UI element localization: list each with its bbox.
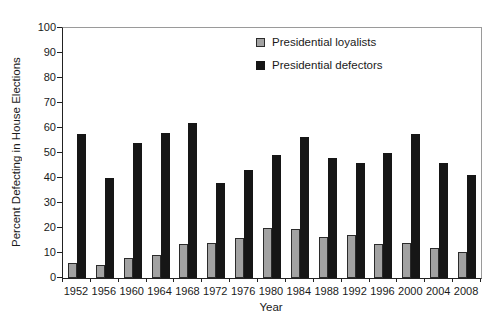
plot-area: Presidential loyalists Presidential defe… bbox=[62, 27, 482, 279]
legend-swatch-defectors-icon bbox=[256, 61, 265, 70]
bar-loyalists-2008 bbox=[458, 252, 467, 278]
y-tick-label-100: 100 bbox=[0, 21, 56, 33]
legend-label-defectors: Presidential defectors bbox=[272, 59, 383, 71]
bar-loyalists-1992 bbox=[347, 235, 356, 278]
x-tick-mark-1 bbox=[90, 278, 91, 282]
y-tick-label-60: 60 bbox=[0, 121, 56, 133]
bar-defectors-1992 bbox=[356, 163, 365, 278]
bar-defectors-1988 bbox=[328, 158, 337, 278]
bar-loyalists-1956 bbox=[96, 265, 105, 278]
x-tick-mark-13 bbox=[424, 278, 425, 282]
bar-defectors-1956 bbox=[105, 178, 114, 278]
x-tick-mark-12 bbox=[396, 278, 397, 282]
y-tick-label-50: 50 bbox=[0, 146, 56, 158]
x-tick-label-2008: 2008 bbox=[449, 285, 483, 297]
y-tick-label-30: 30 bbox=[0, 196, 56, 208]
bar-defectors-1980 bbox=[272, 155, 281, 278]
bar-loyalists-1964 bbox=[152, 255, 161, 278]
x-tick-mark-10 bbox=[341, 278, 342, 282]
y-tick-label-40: 40 bbox=[0, 171, 56, 183]
bar-defectors-1976 bbox=[244, 170, 253, 278]
y-tick-label-0: 0 bbox=[0, 271, 56, 283]
bar-defectors-1964 bbox=[161, 133, 170, 278]
bar-loyalists-1972 bbox=[207, 243, 216, 278]
bar-loyalists-1988 bbox=[319, 237, 328, 278]
bar-loyalists-1976 bbox=[235, 238, 244, 278]
bar-loyalists-2000 bbox=[402, 243, 411, 278]
bar-loyalists-2004 bbox=[430, 248, 439, 278]
x-tick-mark-2 bbox=[118, 278, 119, 282]
x-tick-mark-0 bbox=[62, 278, 63, 282]
x-tick-mark-3 bbox=[146, 278, 147, 282]
x-tick-mark-4 bbox=[173, 278, 174, 282]
legend-item-loyalists: Presidential loyalists bbox=[256, 36, 383, 48]
bar-defectors-2004 bbox=[439, 163, 448, 278]
bar-defectors-1960 bbox=[133, 143, 142, 278]
bar-defectors-1952 bbox=[77, 134, 86, 278]
legend-label-loyalists: Presidential loyalists bbox=[272, 36, 376, 48]
x-tick-mark-11 bbox=[369, 278, 370, 282]
x-tick-mark-7 bbox=[257, 278, 258, 282]
bar-chart: Percent Defecting in House Elections 010… bbox=[0, 0, 497, 324]
legend: Presidential loyalists Presidential defe… bbox=[256, 36, 383, 71]
legend-swatch-loyalists-icon bbox=[256, 38, 265, 47]
bar-defectors-1996 bbox=[383, 153, 392, 278]
bar-loyalists-1960 bbox=[124, 258, 133, 278]
x-tick-mark-15 bbox=[480, 278, 481, 282]
x-axis-title: Year bbox=[62, 301, 480, 313]
x-tick-mark-9 bbox=[313, 278, 314, 282]
bar-loyalists-1984 bbox=[291, 229, 300, 278]
bar-loyalists-1980 bbox=[263, 228, 272, 278]
y-tick-label-80: 80 bbox=[0, 71, 56, 83]
bar-defectors-2008 bbox=[467, 175, 476, 278]
bar-loyalists-1952 bbox=[68, 263, 77, 278]
legend-item-defectors: Presidential defectors bbox=[256, 59, 383, 71]
x-tick-mark-6 bbox=[229, 278, 230, 282]
y-tick-label-20: 20 bbox=[0, 221, 56, 233]
bar-defectors-1968 bbox=[188, 123, 197, 278]
x-tick-mark-8 bbox=[285, 278, 286, 282]
bar-defectors-1984 bbox=[300, 137, 309, 278]
y-tick-label-70: 70 bbox=[0, 96, 56, 108]
bar-loyalists-1968 bbox=[179, 244, 188, 278]
bar-defectors-1972 bbox=[216, 183, 225, 278]
y-tick-label-10: 10 bbox=[0, 246, 56, 258]
x-tick-mark-5 bbox=[201, 278, 202, 282]
y-tick-label-90: 90 bbox=[0, 46, 56, 58]
x-tick-mark-14 bbox=[452, 278, 453, 282]
bar-loyalists-1996 bbox=[374, 244, 383, 278]
bar-defectors-2000 bbox=[411, 134, 420, 278]
